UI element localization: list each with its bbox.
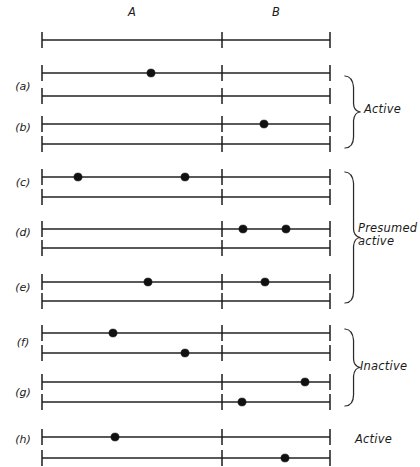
timeline-row-f: (f) [17,325,330,361]
timeline-row-h: (h) [15,429,330,466]
interval-header-a: A [127,5,136,19]
group-labels-group: ActivePresumedactiveInactiveActive [354,102,418,446]
row-label-b: (b) [15,121,31,134]
group-label-line: Active [363,102,401,116]
row-e-line-0-marker-0 [144,278,152,286]
row-d-line-0-marker-1 [282,225,290,233]
group-label-line: Active [354,432,392,446]
row-g-line-1-marker-0 [238,398,246,406]
row-d-line-0-marker-0 [239,225,247,233]
group-label-line: active [358,234,394,248]
row-f-line-0-marker-0 [109,329,117,337]
reference-axis-group [42,32,330,48]
row-e-line-0-marker-1 [261,278,269,286]
row-label-g: (g) [15,386,31,399]
group-label-active-top: Active [363,102,401,116]
interval-header-b: B [272,5,280,19]
row-label-h: (h) [15,433,31,446]
row-h-line-0-marker-0 [111,433,119,441]
timeline-row-g: (g) [15,374,330,410]
header-labels-group: AB [127,5,280,19]
row-label-f: (f) [17,336,29,349]
timeline-row-d: (d) [15,221,330,256]
row-g-line-0-marker-0 [301,378,309,386]
timeline-row-a: (a) [15,65,330,104]
row-label-d: (d) [15,226,31,239]
group-label-line: Presumed [358,221,418,235]
timeline-rows-group: (a)(b)(c)(d)(e)(f)(g)(h) [15,65,330,466]
row-f-line-1-marker-0 [181,349,189,357]
timeline-row-e: (e) [15,274,330,309]
timeline-row-c: (c) [16,169,330,205]
row-label-e: (e) [15,281,30,294]
row-label-c: (c) [16,176,31,189]
row-label-a: (a) [15,80,30,93]
diagram-canvas: AB (a)(b)(c)(d)(e)(f)(g)(h) ActivePresum… [0,0,420,467]
row-a-line-0-marker-0 [147,69,155,77]
group-label-active-bottom: Active [354,432,392,446]
brace-inactive [345,329,360,406]
brace-active-top [345,76,360,148]
row-c-line-0-marker-0 [74,173,82,181]
row-b-line-0-marker-0 [260,120,268,128]
timeline-diagram: AB (a)(b)(c)(d)(e)(f)(g)(h) ActivePresum… [0,0,420,467]
group-label-presumed-active: Presumedactive [358,221,418,248]
row-h-line-1-marker-0 [281,454,289,462]
group-label-line: Inactive [360,359,407,373]
group-label-inactive: Inactive [360,359,407,373]
timeline-row-b: (b) [15,116,330,152]
row-c-line-0-marker-1 [181,173,189,181]
